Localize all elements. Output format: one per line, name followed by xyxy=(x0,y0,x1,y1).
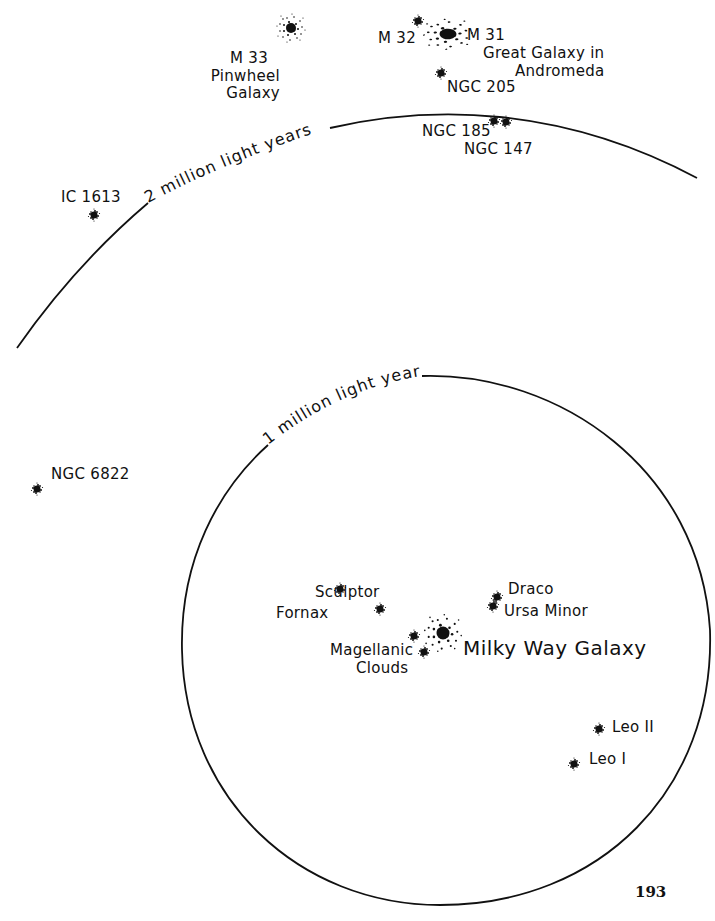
ngc147-label: NGC 147 xyxy=(464,141,533,158)
sculptor-label: Sculptor xyxy=(315,584,380,601)
m31-desc-line1: Great Galaxy in xyxy=(483,45,604,62)
m32-blob-icon xyxy=(412,14,424,27)
ngc6822-label: NGC 6822 xyxy=(51,466,130,483)
fornax-label: Fornax xyxy=(276,605,329,622)
m33-desc-line1: Pinwheel xyxy=(200,68,280,85)
local-group-diagram: 2 million light years 1 million light ye… xyxy=(0,0,715,921)
ic1613-label: IC 1613 xyxy=(61,189,121,206)
leo1-label: Leo I xyxy=(589,751,626,768)
m33-spiral-icon xyxy=(276,13,305,42)
m31-desc-line2: Andromeda xyxy=(515,63,605,80)
ic1613-blob-icon xyxy=(88,208,100,221)
ngc185-label: NGC 185 xyxy=(422,123,491,140)
ursa-minor-label: Ursa Minor xyxy=(504,603,588,620)
page-number: 193 xyxy=(635,883,666,901)
m33-name: M 33 xyxy=(218,50,268,67)
diagram-page: 2 million light years 1 million light ye… xyxy=(0,0,715,921)
m32-label: M 32 xyxy=(378,30,416,47)
milky-way-spiral-icon xyxy=(424,614,462,652)
milky-way-label: Milky Way Galaxy xyxy=(463,637,647,659)
leo2-label: Leo II xyxy=(612,719,654,736)
ngc6822-blob-icon xyxy=(31,482,43,495)
sculptor-blob-icon xyxy=(374,602,386,615)
leo1-blob-icon xyxy=(568,757,580,770)
draco-blob-icon xyxy=(491,590,503,603)
ngc205-blob-icon xyxy=(435,66,447,79)
ngc205-label: NGC 205 xyxy=(447,79,516,96)
m31-name: M 31 xyxy=(467,27,505,44)
m33-label: M 33 xyxy=(218,50,268,67)
ring-2-million-label: 2 million light years xyxy=(141,119,314,206)
magellanic-small-blob-icon xyxy=(418,645,430,658)
magellanic-label-line2: Clouds xyxy=(356,660,408,677)
m33-desc-line2: Galaxy xyxy=(200,85,280,102)
magellanic-label-line1: Magellanic xyxy=(330,642,413,659)
ursa-minor-blob-icon xyxy=(487,599,499,612)
m33-description: Pinwheel Galaxy xyxy=(200,68,280,102)
ring-2-million-arc-left xyxy=(17,203,148,348)
leo2-blob-icon xyxy=(593,722,605,735)
draco-label: Draco xyxy=(508,581,554,598)
